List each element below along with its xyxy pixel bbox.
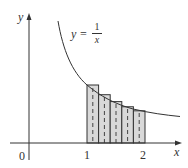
- function-label-lhs: y =: [71, 28, 87, 40]
- x-axis-label: x: [174, 146, 179, 158]
- y-axis-arrow-icon: [27, 13, 32, 20]
- function-label-numerator: 1: [92, 22, 102, 32]
- origin-label: 0: [19, 150, 25, 162]
- rectangle-1: [87, 85, 99, 143]
- y-axis-label: y: [18, 11, 23, 23]
- x-tick-1: 1: [84, 149, 90, 161]
- riemann-sum-diagram: y x 0 1 2 y = 1 x: [0, 0, 188, 168]
- function-label-denominator: x: [92, 35, 102, 45]
- x-tick-2: 2: [140, 149, 146, 161]
